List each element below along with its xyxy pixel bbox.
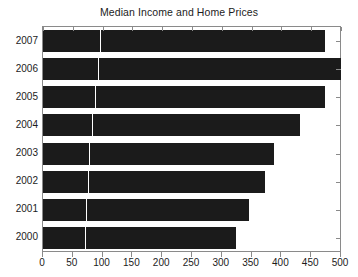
bar-row: [43, 171, 341, 193]
bar-segment-divider: [92, 114, 93, 136]
x-axis-tick-top: [43, 27, 44, 31]
y-axis-tick: [336, 182, 341, 183]
y-axis-tick: [336, 97, 341, 98]
x-axis-tick-top: [73, 27, 74, 31]
bar-segment-divider: [89, 143, 90, 165]
bar: [43, 199, 249, 221]
x-axis-tick-labels: 050100150200250300350400450500: [0, 257, 358, 273]
x-axis-tick-top: [222, 27, 223, 31]
y-axis-label-2005: 2005: [0, 91, 38, 102]
bar-segment-divider: [88, 171, 89, 193]
x-axis-tick-top: [281, 27, 282, 31]
bar-row: [43, 58, 341, 80]
y-axis-label-2002: 2002: [0, 175, 38, 186]
y-axis-label-2001: 2001: [0, 203, 38, 214]
x-axis-tick-top: [341, 27, 342, 31]
y-axis-label-2000: 2000: [0, 231, 38, 242]
x-axis-tick-top: [192, 27, 193, 31]
bar-row: [43, 30, 341, 52]
y-axis-label-2007: 2007: [0, 35, 38, 46]
bar-row: [43, 199, 341, 221]
bar: [43, 143, 274, 165]
bar-segment-divider: [85, 227, 86, 249]
x-axis-tick-label-500: 500: [320, 257, 358, 269]
chart-figure: Median Income and Home Prices 2007200620…: [0, 0, 358, 277]
bar: [43, 30, 325, 52]
y-axis-label-2004: 2004: [0, 119, 38, 130]
x-axis-tick-top: [103, 27, 104, 31]
y-axis-tick: [336, 154, 341, 155]
bar-segment-divider: [100, 30, 101, 52]
bar-segment-divider: [95, 86, 96, 108]
y-axis-label-2006: 2006: [0, 63, 38, 74]
plot-area: [43, 27, 341, 252]
bar-row: [43, 143, 341, 165]
bar-row: [43, 86, 341, 108]
y-axis-label-2003: 2003: [0, 147, 38, 158]
x-axis-tick-top: [252, 27, 253, 31]
bar-row: [43, 227, 341, 249]
y-axis-tick: [336, 69, 341, 70]
bar-segment-divider: [98, 58, 99, 80]
y-axis-tick: [336, 238, 341, 239]
y-axis-tick: [336, 41, 341, 42]
bar: [43, 227, 236, 249]
x-axis-tick-top: [132, 27, 133, 31]
bar-row: [43, 114, 341, 136]
chart-title: Median Income and Home Prices: [0, 6, 358, 18]
bar: [43, 114, 300, 136]
x-axis-tick-top: [162, 27, 163, 31]
bar: [43, 86, 325, 108]
y-axis-tick: [336, 210, 341, 211]
bar: [43, 171, 265, 193]
y-axis-tick: [336, 125, 341, 126]
y-axis-category-labels: 20072006200520042003200220012000: [0, 26, 38, 252]
bar-segment-divider: [86, 199, 87, 221]
x-axis-tick-top: [311, 27, 312, 31]
bar: [43, 58, 341, 80]
